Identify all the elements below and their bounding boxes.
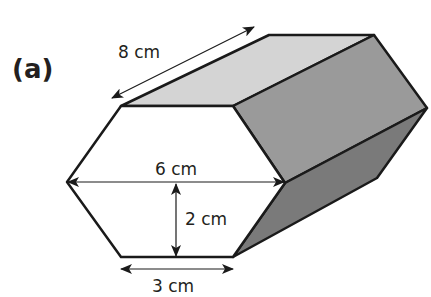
length-label: 8 cm xyxy=(118,42,160,62)
width-label: 6 cm xyxy=(155,159,197,179)
hexagonal-prism-diagram: (a) 8 cm 6 cm 2 cm 3 cm xyxy=(0,0,431,297)
height-label: 2 cm xyxy=(185,209,227,229)
part-label: (a) xyxy=(12,54,53,84)
side-label: 3 cm xyxy=(152,276,194,296)
